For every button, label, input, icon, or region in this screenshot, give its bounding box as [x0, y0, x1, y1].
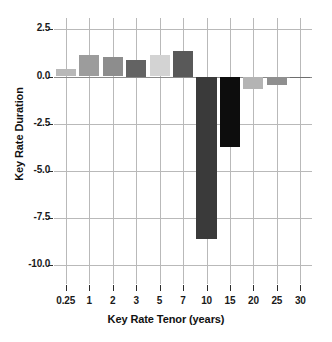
- gridline-horizontal: [54, 124, 312, 125]
- x-axis-title: Key Rate Tenor (years): [0, 313, 332, 325]
- x-tick-mark: [253, 285, 254, 291]
- gridline-horizontal: [54, 171, 312, 172]
- y-tick-label: -5.0: [4, 164, 50, 175]
- bar-3y: [126, 60, 146, 77]
- gridline-vertical: [66, 18, 67, 284]
- y-tick-label: -7.5: [4, 211, 50, 222]
- bar-1y: [79, 55, 99, 77]
- y-tick-label: 0.0: [4, 70, 50, 81]
- bar-30y: [290, 77, 310, 78]
- x-tick-mark: [300, 285, 301, 291]
- x-tick-mark: [230, 285, 231, 291]
- bar-2y: [103, 57, 123, 77]
- x-tick-mark: [277, 285, 278, 291]
- y-tick-label: 2.5: [4, 22, 50, 33]
- x-tick-mark: [136, 285, 137, 291]
- bar-15y: [220, 77, 240, 148]
- bar-25y: [267, 77, 287, 86]
- gridline-vertical: [136, 18, 137, 284]
- bar-0.25y: [56, 69, 76, 77]
- gridline-vertical: [230, 18, 231, 284]
- x-tick-mark: [183, 285, 184, 291]
- x-tick-mark: [113, 285, 114, 291]
- bar-7y: [173, 51, 193, 77]
- gridline-horizontal: [54, 218, 312, 219]
- x-tick-mark: [207, 285, 208, 291]
- bar-10y: [196, 77, 216, 239]
- key-rate-duration-bar-chart: 2.50.0-2.5-5.0-7.5-10.0 0.25123571015202…: [0, 0, 332, 342]
- gridline-horizontal: [54, 29, 312, 30]
- plot-area: [54, 18, 312, 284]
- bar-20y: [243, 77, 263, 89]
- gridline-vertical: [277, 18, 278, 284]
- y-tick-label: -10.0: [4, 258, 50, 269]
- gridline-vertical: [300, 18, 301, 284]
- bar-5y: [150, 55, 170, 77]
- y-axis-title: Key Rate Duration: [13, 19, 25, 249]
- x-tick-mark: [160, 285, 161, 291]
- x-tick-mark: [66, 285, 67, 291]
- x-tick-mark: [89, 285, 90, 291]
- gridline-vertical: [253, 18, 254, 284]
- y-tick-label: -2.5: [4, 117, 50, 128]
- gridline-horizontal: [54, 265, 312, 266]
- x-tick-label: 30: [281, 295, 319, 306]
